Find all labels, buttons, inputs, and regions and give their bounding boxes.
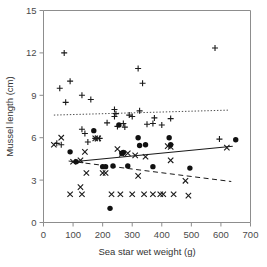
marker-plus: [140, 80, 146, 86]
x-tick-label: 0: [41, 229, 46, 240]
marker-circle: [121, 150, 126, 155]
marker-circle: [233, 137, 238, 142]
marker-plus: [216, 136, 222, 142]
marker-cross: [168, 158, 173, 163]
marker-plus: [82, 130, 88, 136]
marker-cross: [109, 192, 114, 197]
x-tick-label: 400: [154, 229, 170, 240]
plot-frame: [44, 11, 251, 223]
marker-plus: [151, 115, 157, 121]
marker-cross: [183, 178, 188, 183]
marker-circle: [137, 143, 142, 148]
axes: [40, 11, 251, 227]
y-tick-label: 12: [26, 47, 37, 58]
marker-cross: [158, 192, 163, 197]
marker-circle: [143, 142, 148, 147]
marker-cross: [130, 192, 135, 197]
marker-circle: [116, 122, 121, 127]
marker-plus: [113, 111, 119, 117]
solid-trend: [73, 146, 233, 162]
marker-cross: [79, 192, 84, 197]
x-tick-label: 600: [213, 229, 229, 240]
marker-plus: [135, 65, 141, 71]
marker-plus: [159, 122, 165, 128]
marker-plus: [88, 97, 94, 103]
scatter-plot: 036912150100200300400500600700Sea star w…: [0, 0, 267, 267]
x-tick-label: 300: [124, 229, 140, 240]
marker-cross: [82, 149, 87, 154]
marker-circle: [73, 159, 78, 164]
marker-cross: [100, 170, 105, 175]
marker-circle: [168, 142, 173, 147]
y-tick-label: 9: [31, 90, 36, 101]
marker-circle: [150, 164, 155, 169]
marker-circle: [187, 165, 192, 170]
marker-cross: [78, 184, 83, 189]
marker-plus: [168, 116, 174, 122]
x-tick-label: 100: [65, 229, 81, 240]
marker-circle: [103, 164, 108, 169]
marker-circle: [166, 135, 171, 140]
marker-plus: [144, 121, 150, 127]
marker-plus: [111, 106, 117, 112]
marker-cross: [141, 192, 146, 197]
marker-cross: [135, 173, 140, 178]
marker-plus: [150, 121, 156, 127]
dashed-trend: [69, 161, 232, 181]
marker-cross: [59, 135, 64, 140]
marker-plus: [129, 114, 135, 120]
marker-cross: [115, 146, 120, 151]
marker-cross: [103, 170, 108, 175]
y-tick-label: 0: [31, 217, 36, 228]
marker-cross: [224, 145, 229, 150]
marker-plus: [63, 99, 69, 105]
marker-cross: [67, 192, 72, 197]
y-tick-label: 6: [31, 132, 36, 143]
marker-circle: [110, 163, 115, 168]
marker-cross: [84, 170, 89, 175]
marker-circle: [107, 206, 112, 211]
marker-plus: [79, 92, 85, 98]
marker-cross: [171, 192, 176, 197]
marker-plus: [57, 85, 63, 91]
marker-plus: [85, 139, 91, 145]
x-tick-label: 700: [243, 229, 259, 240]
marker-plus: [111, 114, 117, 120]
marker-cross: [161, 192, 166, 197]
x-axis-title: Sea star wet weight (g): [98, 246, 195, 257]
marker-circle: [135, 135, 140, 140]
marker-plus: [58, 142, 64, 148]
x-tick-label: 200: [95, 229, 111, 240]
marker-cross: [150, 192, 155, 197]
marker-circle: [125, 163, 130, 168]
x-tick-label: 500: [183, 229, 199, 240]
marker-circle: [91, 128, 96, 133]
y-tick-label: 3: [31, 175, 36, 186]
marker-cross: [186, 193, 191, 198]
marker-plus: [104, 120, 110, 126]
marker-cross: [118, 192, 123, 197]
marker-plus: [61, 50, 67, 56]
marker-plus: [79, 126, 85, 132]
axis-labels: 036912150100200300400500600700Sea star w…: [4, 5, 258, 257]
marker-plus: [67, 78, 73, 84]
chart-figure: 036912150100200300400500600700Sea star w…: [0, 0, 267, 267]
marker-plus: [122, 124, 128, 130]
data-points: [51, 45, 238, 211]
y-tick-label: 15: [26, 5, 37, 16]
marker-circle: [67, 149, 72, 154]
y-axis-title: Mussel length (cm): [4, 76, 15, 156]
marker-plus: [212, 45, 218, 51]
